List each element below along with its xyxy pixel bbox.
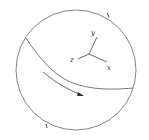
great-circle-curve <box>26 38 133 89</box>
coordinate-axes: y z x <box>69 29 111 72</box>
sphere-outline <box>16 10 136 130</box>
tick-mark-top-right <box>107 13 109 17</box>
y-axis-label: y <box>90 29 96 37</box>
z-axis-line <box>78 54 89 59</box>
z-axis-label: z <box>69 56 74 64</box>
arrowhead-icon <box>77 92 84 96</box>
sphere-diagram: y z x <box>0 0 149 140</box>
x-axis-line <box>89 54 107 62</box>
x-axis-label: x <box>107 64 111 72</box>
y-axis-line <box>89 37 97 54</box>
tick-mark-bottom-left <box>46 124 47 128</box>
direction-arrow <box>43 72 84 96</box>
